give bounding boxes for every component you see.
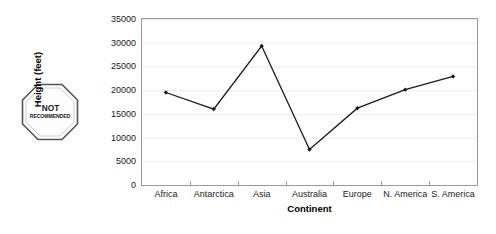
y-axis-tick-labels: 05000100001500020000250003000035000	[96, 0, 136, 234]
y-axis-tick-label: 10000	[96, 133, 136, 143]
plot-svg	[142, 19, 477, 185]
data-point-marker	[403, 87, 407, 91]
x-axis-tick-label: N. America	[383, 189, 427, 199]
data-point-markers	[164, 44, 456, 152]
x-axis-ticks	[191, 181, 430, 185]
x-axis-tick-labels: AfricaAntarcticaAsiaAustraliaEuropeN. Am…	[141, 189, 478, 203]
data-line	[166, 46, 453, 149]
x-axis-tick-label: Antarctica	[194, 189, 234, 199]
x-axis-tick-label: S. America	[431, 189, 475, 199]
data-point-marker	[451, 74, 455, 78]
x-axis-tick-label: Europe	[343, 189, 372, 199]
line-chart: Height (feet) 05000100001500020000250003…	[0, 0, 496, 234]
y-axis-tick-label: 0	[96, 180, 136, 190]
x-axis-tick-label: Asia	[253, 189, 271, 199]
plot-area	[141, 18, 478, 186]
y-axis-tick-label: 25000	[96, 61, 136, 71]
y-axis-tick-label: 5000	[96, 156, 136, 166]
y-axis-title: Height (feet)	[32, 16, 43, 144]
x-axis-tick-label: Australia	[292, 189, 327, 199]
y-axis-tick-label: 20000	[96, 85, 136, 95]
x-axis-title: Continent	[141, 203, 478, 214]
y-axis-tick-label: 30000	[96, 38, 136, 48]
y-axis-tick-label: 15000	[96, 109, 136, 119]
x-axis-tick-label: Africa	[154, 189, 177, 199]
y-axis-tick-label: 35000	[96, 14, 136, 24]
